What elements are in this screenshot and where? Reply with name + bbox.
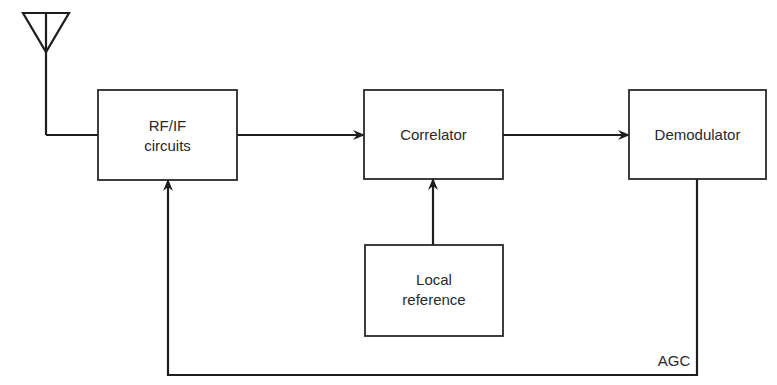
demodulator-label: Demodulator bbox=[655, 126, 741, 143]
local-reference-block: Local reference bbox=[365, 245, 503, 336]
rf-if-label-line2: circuits bbox=[144, 137, 191, 154]
demodulator-block: Demodulator bbox=[629, 90, 766, 179]
agc-label: AGC bbox=[658, 352, 691, 369]
antenna-icon bbox=[23, 13, 98, 135]
correlator-block: Correlator bbox=[364, 90, 503, 179]
correlator-label: Correlator bbox=[400, 126, 467, 143]
rf-if-circuits-block: RF/IF circuits bbox=[98, 90, 237, 180]
local-reference-label-line2: reference bbox=[402, 291, 465, 308]
receiver-block-diagram: RF/IF circuits Correlator Demodulator Lo… bbox=[0, 0, 777, 385]
rf-if-label-line1: RF/IF bbox=[149, 117, 187, 134]
local-reference-label-line1: Local bbox=[416, 271, 452, 288]
